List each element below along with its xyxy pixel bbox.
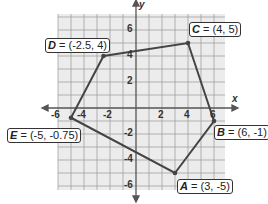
x-tick: -4 [77,109,86,120]
vertex-d [101,54,106,59]
vertex-c [186,41,191,46]
y-tick: -6 [124,179,133,190]
y-axis-label: y [139,0,145,10]
x-axis-label: x [232,93,238,104]
y-tick: 4 [127,49,133,60]
x-tick: 2 [158,109,164,120]
y-tick: -4 [124,153,133,164]
x-tick: 4 [184,109,190,120]
vertex-a [173,171,178,176]
label-e: E = (-5, -0.75) [7,128,81,143]
x-tick: 6 [210,109,216,120]
y-tick: 6 [127,23,133,34]
x-tick: -6 [51,109,60,120]
y-tick: -2 [124,127,133,138]
y-axis-arrow-down-icon [133,196,139,202]
x-axis-arrow-left-icon [42,105,48,111]
label-c: C = (4, 5) [189,22,241,37]
label-a: A = (3, -5) [177,179,233,194]
vertex-e [69,115,74,120]
x-tick: -2 [103,109,112,120]
label-d: D = (-2.5, 4) [45,38,110,53]
label-b: B = (6, -1) [214,125,268,140]
x-axis-arrow-right-icon [232,105,238,111]
y-tick: 2 [127,75,133,86]
